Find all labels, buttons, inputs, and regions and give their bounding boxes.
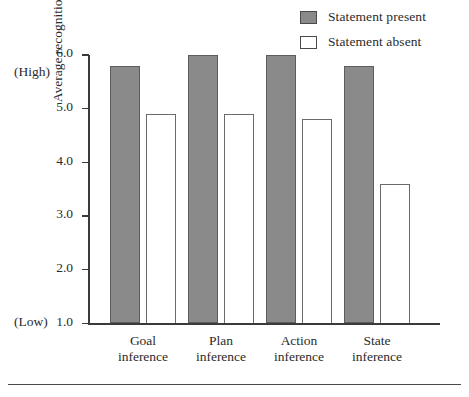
x-axis-category-line: inference: [254, 349, 344, 365]
legend-label-statement-absent: Statement absent: [328, 34, 421, 50]
y-axis-tick-label: 3.0: [56, 206, 73, 222]
x-axis-line: [88, 323, 440, 325]
chart-legend: Statement present Statement absent: [300, 6, 465, 56]
y-axis-tick-label: 4.0: [56, 153, 73, 169]
bar-present: [266, 55, 296, 323]
x-axis-category-line: Action: [254, 333, 344, 349]
x-axis-category-label: Stateinference: [332, 333, 422, 365]
y-axis-tick: 5.0: [82, 108, 89, 110]
bar-present: [110, 66, 140, 324]
bottom-divider-rule: [8, 384, 461, 385]
x-axis-category-line: State: [332, 333, 422, 349]
y-axis-tick: 1.0: [82, 323, 89, 325]
bar-present: [344, 66, 374, 324]
x-axis-category-line: Goal: [98, 333, 188, 349]
bar-present: [188, 55, 218, 323]
bar-chart-plot-area: Average recognition rating 1.02.03.04.05…: [88, 55, 440, 325]
legend-label-statement-present: Statement present: [328, 9, 426, 25]
y-axis-tick: 4.0: [82, 162, 89, 164]
bar-absent: [302, 119, 332, 323]
y-axis-line: [88, 55, 90, 325]
x-axis-category-label: Planinference: [176, 333, 266, 365]
bar-absent: [224, 114, 254, 323]
legend-item-statement-present: Statement present: [300, 6, 465, 28]
y-axis-tick-label: 6.0: [56, 45, 73, 61]
x-axis-category-line: Plan: [176, 333, 266, 349]
legend-swatch-empty-square-icon: [300, 36, 317, 49]
y-axis-high-caption: (High): [14, 64, 50, 80]
x-axis-category-label: Actioninference: [254, 333, 344, 365]
y-axis-tick-label: 2.0: [56, 260, 73, 276]
x-axis-category-line: inference: [176, 349, 266, 365]
bar-absent: [380, 184, 410, 324]
y-axis-low-caption: (Low): [14, 314, 48, 330]
legend-item-statement-absent: Statement absent: [300, 31, 465, 53]
y-axis-tick-label: 5.0: [56, 99, 73, 115]
x-axis-category-label: Goalinference: [98, 333, 188, 365]
y-axis-tick-label: 1.0: [56, 314, 73, 330]
y-axis-tick: 6.0: [82, 54, 89, 56]
y-axis-tick: 2.0: [82, 269, 89, 271]
x-axis-category-line: inference: [332, 349, 422, 365]
x-axis-category-line: inference: [98, 349, 188, 365]
y-axis-title: Average recognition rating: [50, 0, 66, 145]
bar-absent: [146, 114, 176, 323]
y-axis-tick: 3.0: [82, 215, 89, 217]
legend-swatch-filled-square-icon: [300, 11, 317, 24]
